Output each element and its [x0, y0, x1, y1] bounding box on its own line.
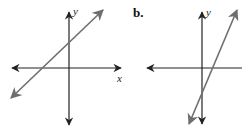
panel-a-y-label: y [73, 6, 78, 17]
panel-a-graph [11, 10, 121, 125]
panel-a-line [11, 10, 103, 98]
panel-b-graph [147, 10, 242, 124]
panel-a-x-label: x [117, 73, 122, 84]
graphs-canvas [0, 0, 242, 127]
panel-b-line [189, 10, 237, 124]
graph-figure: y x b. y [0, 0, 242, 127]
panel-b-label: b. [133, 6, 143, 19]
panel-b-y-label: y [206, 7, 211, 18]
